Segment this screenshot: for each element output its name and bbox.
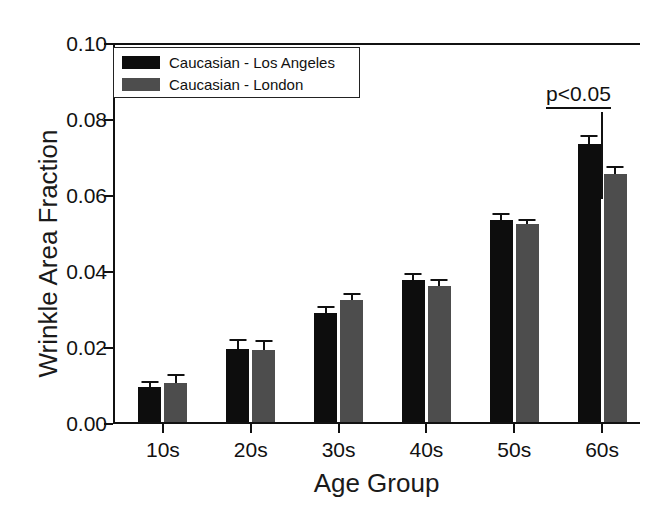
y-tick: 0.04: [113, 271, 114, 272]
chart-legend: Caucasian - Los Angeles Caucasian - Lond…: [113, 47, 360, 98]
error-bar: [340, 293, 363, 301]
x-tick-mark: [601, 424, 603, 433]
error-bar-cap: [167, 374, 184, 376]
y-tick-label: 0.06: [66, 184, 107, 208]
bar: [164, 383, 187, 422]
error-bar-cap: [493, 213, 510, 215]
x-axis-title: Age Group: [113, 468, 640, 499]
error-bar-cap: [581, 135, 598, 137]
x-tick-label: 40s: [409, 438, 443, 462]
y-tick: 0.06: [113, 195, 114, 196]
y-tick-label: 0.04: [66, 260, 107, 284]
legend-item-los-angeles: Caucasian - Los Angeles: [122, 52, 353, 73]
error-bar: [164, 374, 187, 383]
error-bar-cap: [317, 306, 334, 308]
bar: [604, 174, 627, 422]
error-bar-cap: [405, 273, 422, 275]
y-tick-label: 0.02: [66, 336, 107, 360]
error-bar-cap: [431, 279, 448, 281]
y-axis-line: [113, 43, 115, 424]
y-tick: 0.08: [113, 119, 114, 120]
x-tick-mark: [513, 424, 515, 433]
significance-annotation-bar: [601, 112, 603, 199]
error-bar: [428, 279, 451, 286]
y-tick: 0.10: [113, 43, 114, 44]
legend-item-london: Caucasian - London: [122, 74, 353, 95]
error-bar: [604, 166, 627, 174]
error-bar-cap: [343, 293, 360, 295]
bar: [138, 387, 161, 422]
bar: [314, 313, 337, 422]
legend-label-london: Caucasian - London: [169, 76, 303, 93]
wrinkle-area-fraction-bar-chart: Wrinkle Area Fraction Age Group 0.000.02…: [0, 0, 660, 527]
x-tick-label: 20s: [234, 438, 268, 462]
bar: [428, 286, 451, 422]
bar: [402, 280, 425, 422]
error-bar-cap: [141, 381, 158, 383]
x-tick-label: 10s: [146, 438, 180, 462]
y-tick: 0.00: [113, 423, 114, 424]
error-bar: [402, 273, 425, 280]
significance-annotation-label: p<0.05: [546, 82, 611, 109]
bar: [516, 224, 539, 422]
x-tick-label: 50s: [497, 438, 531, 462]
x-tick-mark: [425, 424, 427, 433]
error-bar: [252, 340, 275, 350]
legend-swatch-icon-los-angeles: [122, 56, 160, 69]
legend-label-los-angeles: Caucasian - Los Angeles: [169, 54, 335, 71]
plot-top-border: [113, 43, 640, 45]
error-bar-cap: [607, 166, 624, 168]
error-bar: [226, 339, 249, 349]
error-bar-cap: [229, 339, 246, 341]
x-tick-label: 30s: [322, 438, 356, 462]
x-tick-mark: [162, 424, 164, 433]
legend-swatch-icon-london: [122, 78, 160, 91]
x-axis-line: [113, 422, 640, 424]
error-bar: [314, 306, 337, 314]
bar: [226, 349, 249, 422]
y-tick-label: 0.08: [66, 108, 107, 132]
bar: [490, 220, 513, 422]
bar: [578, 144, 601, 422]
bar: [340, 300, 363, 422]
y-axis-title: Wrinkle Area Fraction: [33, 64, 64, 444]
x-tick-mark: [250, 424, 252, 433]
x-tick-label: 60s: [585, 438, 619, 462]
bar: [252, 350, 275, 422]
y-tick-label: 0.00: [66, 412, 107, 436]
error-bar-cap: [255, 340, 272, 342]
error-bar: [578, 135, 601, 144]
error-bar: [516, 219, 539, 225]
error-bar-cap: [519, 219, 536, 221]
y-tick: 0.02: [113, 347, 114, 348]
error-bar: [138, 381, 161, 387]
error-bar: [490, 213, 513, 219]
x-tick-mark: [338, 424, 340, 433]
y-tick-label: 0.10: [66, 32, 107, 56]
